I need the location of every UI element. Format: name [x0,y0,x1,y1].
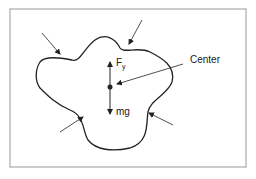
pressure-arrow-top-left [42,33,60,54]
weight-label: mg [116,107,130,117]
force-up-subscript: y [122,63,126,70]
center-label: Center [190,55,220,65]
pressure-arrow-top-right [129,20,142,44]
buoyant-force-label: Fy [116,58,126,68]
irregular-body-outline [36,37,172,150]
pressure-arrow-bottom-right [149,113,173,125]
pressure-arrow-bottom-left [60,117,83,132]
diagram-canvas [0,0,256,179]
frame [10,9,246,167]
center-point [108,85,113,90]
